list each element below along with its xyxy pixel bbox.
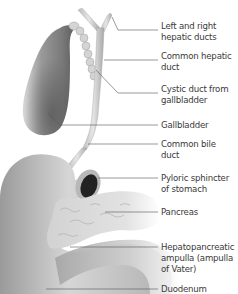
label-common-bile-duct: Common bile duct [161,139,216,161]
label-line: hepatic ducts [161,32,217,43]
label-line: Common bile [161,139,216,150]
label-hepatic-ducts: Left and right hepatic ducts [161,21,217,43]
label-ampulla-of-vater: Hepatopancreatic ampulla (ampulla of Vat… [161,242,234,275]
label-line: Duodenum [161,284,207,294]
label-line: Pyloric sphincter [161,173,229,184]
pancreas-shape [47,191,160,248]
label-line: Left and right [161,21,217,32]
label-duodenum: Duodenum [161,284,207,294]
label-line: Cystic duct from [161,84,228,95]
label-line: Common hepatic [161,51,232,62]
label-line: duct [161,150,216,161]
label-line: of Vater) [161,264,234,275]
label-common-hepatic-duct: Common hepatic duct [161,51,232,73]
gallbladder-shape [23,25,75,135]
label-line: gallbladder [161,95,228,106]
label-cystic-duct: Cystic duct from gallbladder [161,84,228,106]
label-pancreas: Pancreas [161,207,198,218]
label-line: Pancreas [161,207,198,218]
label-line: Gallbladder [161,120,208,131]
label-line: Hepatopancreatic [161,242,234,253]
label-line: ampulla (ampulla [161,253,234,264]
label-line: of stomach [161,184,229,195]
cystic-duct-shape [69,22,98,80]
label-gallbladder: Gallbladder [161,120,208,131]
label-line: duct [161,62,232,73]
label-pyloric-sphincter: Pyloric sphincter of stomach [161,173,229,195]
